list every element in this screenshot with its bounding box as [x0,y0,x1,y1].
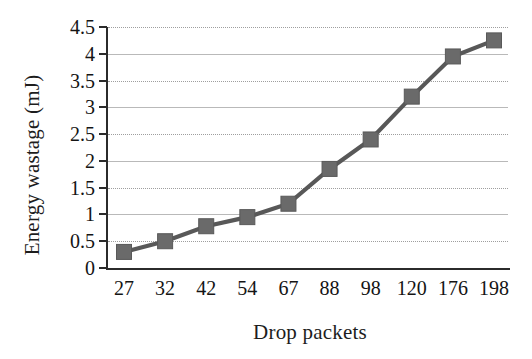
x-axis-tick-label: 98 [361,277,381,300]
data-point-marker [445,49,460,64]
x-axis-spine [106,268,510,270]
y-axis-tick-label: 0.5 [70,230,95,253]
data-point-marker [487,33,502,48]
x-axis-tick-label: 27 [114,277,134,300]
y-axis-title: Energy wastage (mJ) [15,30,49,300]
data-point-marker [404,89,419,104]
y-axis-spine [106,27,108,268]
data-point-marker [240,210,255,225]
y-axis-tick-label: 4 [85,42,95,65]
data-point-marker [322,161,337,176]
x-axis-tick-label: 54 [237,277,257,300]
series-line-energy-wastage [124,40,494,252]
data-point-marker [199,219,214,234]
y-axis-tick-label: 3 [85,96,95,119]
data-point-marker [281,196,296,211]
y-axis-tick-label: 2.5 [70,123,95,146]
x-axis-tick-label: 32 [155,277,175,300]
x-axis-title: Drop packets [108,320,512,345]
y-axis-tick-label: 2 [85,149,95,172]
y-axis-tick-label: 3.5 [70,69,95,92]
y-axis-tick-label: 1.5 [70,176,95,199]
y-axis-tick-label: 0 [85,257,95,280]
chart-figure: Energy wastage (mJ) 00.511.522.533.544.5… [0,0,532,359]
data-point-marker [117,244,132,259]
series-plot [108,27,508,268]
data-point-marker [158,234,173,249]
x-axis-tick-label: 176 [438,277,468,300]
x-axis-tick-label: 88 [320,277,340,300]
x-axis-tick-label: 67 [278,277,298,300]
x-axis-tick-label: 198 [479,277,509,300]
data-point-marker [363,132,378,147]
y-axis-tick-label: 4.5 [70,16,95,39]
y-axis-tick-label: 1 [85,203,95,226]
x-axis-tick-label: 42 [196,277,216,300]
plot-area: 00.511.522.533.544.5 2732425467889812017… [108,27,508,268]
x-axis-tick-label: 120 [397,277,427,300]
